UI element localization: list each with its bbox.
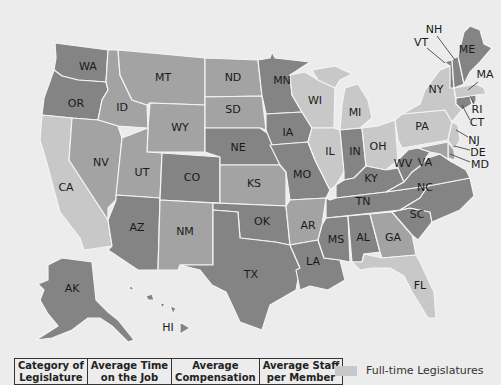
header-staff: Average Staffper Member: [259, 359, 343, 385]
label-NM: NM: [176, 225, 194, 238]
label-SC: SC: [410, 208, 425, 221]
header-line: Category of: [18, 360, 84, 371]
label-IN: IN: [349, 145, 360, 158]
label-NY: NY: [429, 83, 444, 96]
leader-line-NH: [437, 36, 455, 60]
label-SD: SD: [225, 103, 240, 116]
label-NC: NC: [417, 181, 433, 194]
label-ND: ND: [225, 71, 242, 84]
label-WA: WA: [79, 60, 97, 73]
label-OR: OR: [68, 97, 85, 110]
label-RI: RI: [472, 103, 483, 116]
label-OK: OK: [254, 215, 271, 228]
header-line: Average Time: [91, 360, 168, 371]
label-WV: WV: [394, 157, 413, 170]
legislature-comparison-table: Category ofLegislature Average Timeon th…: [14, 358, 343, 385]
header-line: Average Staff: [263, 360, 340, 371]
label-AL: AL: [356, 231, 371, 244]
label-IA: IA: [283, 126, 294, 139]
label-NH: NH: [426, 23, 443, 36]
label-VT: VT: [414, 36, 429, 49]
label-KS: KS: [247, 177, 261, 190]
label-ME: ME: [459, 43, 475, 56]
label-TX: TX: [243, 268, 259, 281]
label-VA: VA: [418, 156, 433, 169]
label-MI: MI: [349, 106, 362, 119]
label-TN: TN: [355, 195, 371, 208]
legend-label-full-time: Full-time Legislatures: [366, 364, 483, 377]
table-header-row: Category ofLegislature Average Timeon th…: [15, 359, 343, 385]
label-OH: OH: [370, 140, 387, 153]
label-AZ: AZ: [129, 221, 145, 234]
header-line: Legislature: [19, 372, 82, 383]
state-HI-islands[interactable]: [128, 286, 190, 334]
label-MD: MD: [471, 158, 489, 171]
label-WI: WI: [308, 94, 322, 107]
label-IL: IL: [325, 145, 335, 158]
map-legend: Full-time Legislatures: [335, 364, 483, 377]
header-line: Compensation: [175, 372, 256, 383]
us-state-legislatures-map: WA OR CA ID NV MT WY UT AZ CO NM ND SD N…: [0, 0, 501, 350]
label-WY: WY: [171, 121, 189, 134]
header-line: on the Job: [101, 372, 158, 383]
state-AK[interactable]: [36, 258, 134, 342]
label-AK: AK: [65, 282, 81, 295]
label-HI: HI: [162, 321, 174, 334]
header-line: Average: [192, 360, 238, 371]
label-UT: UT: [135, 166, 150, 179]
label-MN: MN: [273, 74, 291, 87]
header-category: Category ofLegislature: [15, 359, 88, 385]
label-MO: MO: [293, 168, 311, 181]
label-FL: FL: [414, 279, 427, 292]
label-CO: CO: [184, 171, 201, 184]
label-MT: MT: [155, 71, 171, 84]
label-NE: NE: [230, 141, 245, 154]
label-MS: MS: [328, 233, 344, 246]
label-LA: LA: [306, 255, 320, 268]
header-time: Average Timeon the Job: [87, 359, 171, 385]
label-MA: MA: [476, 68, 493, 81]
header-compensation: AverageCompensation: [172, 359, 260, 385]
legend-swatch-full-time: [335, 366, 357, 376]
label-CA: CA: [58, 181, 74, 194]
label-NV: NV: [93, 156, 109, 169]
label-AR: AR: [300, 219, 316, 232]
header-line: per Member: [267, 372, 335, 383]
label-CT: CT: [470, 116, 485, 129]
label-ID: ID: [116, 101, 128, 114]
leader-line-VT: [427, 48, 445, 63]
label-KY: KY: [364, 172, 378, 185]
label-PA: PA: [415, 120, 429, 133]
label-GA: GA: [385, 231, 402, 244]
